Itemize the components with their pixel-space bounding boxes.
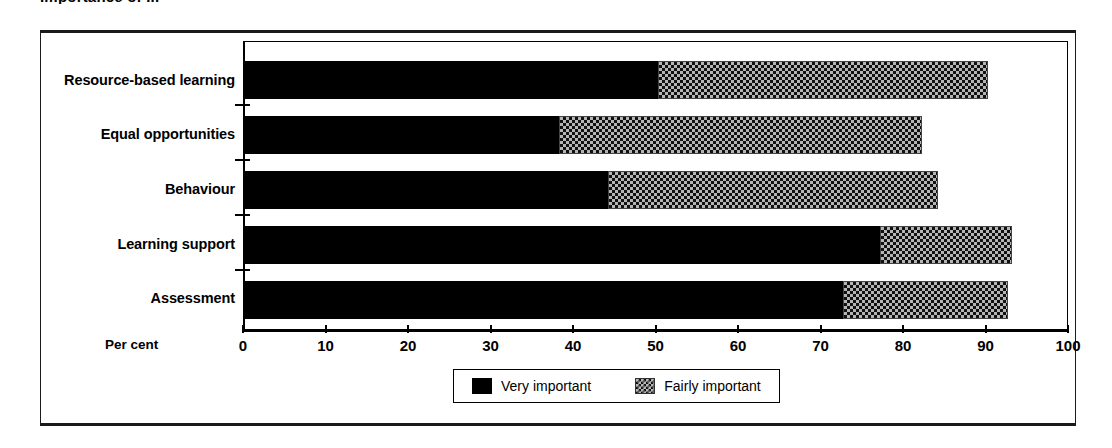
x-axis-tick-label-40: 40 (565, 337, 582, 354)
x-axis-tick-label-30: 30 (482, 337, 499, 354)
x-axis-tick-90 (985, 325, 987, 333)
x-axis-tick-10 (325, 325, 327, 333)
category-label-learning-support: Learning support (25, 236, 235, 252)
legend-item-fairly-important[interactable]: Fairly important (635, 378, 760, 394)
bar-segment-fairly-important[interactable] (559, 116, 922, 154)
x-axis-tick-70 (820, 325, 822, 333)
bar-resource-based-learning[interactable] (245, 61, 988, 99)
legend-swatch-very-important-icon (472, 378, 492, 394)
bar-segment-fairly-important[interactable] (880, 226, 1012, 264)
category-tick-2 (235, 159, 250, 161)
bar-segment-very-important[interactable] (245, 61, 658, 99)
x-axis-tick-30 (490, 325, 492, 333)
x-axis-tick-label-10: 10 (317, 337, 334, 354)
legend-item-very-important[interactable]: Very important (472, 378, 591, 394)
category-label-resource-based-learning: Resource-based learning (25, 72, 235, 88)
bar-learning-support[interactable] (245, 226, 1012, 264)
category-tick-1 (235, 104, 250, 106)
x-axis-tick-100 (1067, 325, 1069, 333)
legend-swatch-fairly-important-icon (635, 378, 655, 394)
x-axis-tick-label-60: 60 (730, 337, 747, 354)
bar-segment-fairly-important[interactable] (608, 171, 938, 209)
x-axis-tick-label-0: 0 (239, 337, 247, 354)
x-axis-tick-label-90: 90 (977, 337, 994, 354)
x-axis-title: Per cent (105, 337, 158, 352)
x-axis-tick-40 (572, 325, 574, 333)
bar-segment-very-important[interactable] (245, 281, 843, 319)
x-axis-tick-label-50: 50 (647, 337, 664, 354)
bar-segment-very-important[interactable] (245, 226, 880, 264)
x-axis-tick-0 (242, 325, 244, 333)
legend-label-fairly-important: Fairly important (664, 378, 760, 394)
legend-label-very-important: Very important (501, 378, 591, 394)
category-tick-4 (235, 269, 250, 271)
x-axis-tick-label-80: 80 (895, 337, 912, 354)
category-label-equal-opportunities: Equal opportunities (25, 126, 235, 142)
chart-legend: Very important Fairly important (453, 369, 780, 403)
bar-segment-very-important[interactable] (245, 171, 608, 209)
x-axis-tick-50 (655, 325, 657, 333)
x-axis-tick-label-70: 70 (812, 337, 829, 354)
bar-behaviour[interactable] (245, 171, 938, 209)
category-tick-3 (235, 214, 250, 216)
category-label-assessment: Assessment (25, 290, 235, 306)
x-axis-tick-60 (737, 325, 739, 333)
x-axis-tick-label-20: 20 (400, 337, 417, 354)
category-label-behaviour: Behaviour (25, 181, 235, 197)
bar-segment-fairly-important[interactable] (843, 281, 1008, 319)
bar-segment-very-important[interactable] (245, 116, 559, 154)
bar-equal-opportunities[interactable] (245, 116, 922, 154)
bar-assessment[interactable] (245, 281, 1008, 319)
category-label-group: Resource-based learning Equal opportunit… (22, 0, 235, 340)
x-axis-tick-label-100: 100 (1055, 337, 1080, 354)
bar-segment-fairly-important[interactable] (658, 61, 988, 99)
x-axis-tick-80 (902, 325, 904, 333)
x-axis-tick-20 (407, 325, 409, 333)
